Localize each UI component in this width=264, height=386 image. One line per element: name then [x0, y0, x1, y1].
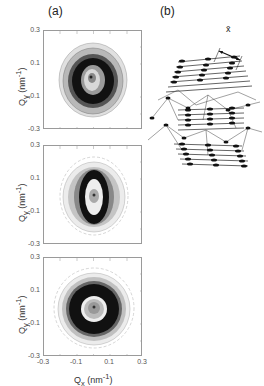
xtick: -0.3	[33, 358, 53, 365]
xtick: -0.1	[66, 358, 86, 365]
ytick: 0.1	[16, 174, 40, 181]
y-axis-label: Qy (nm-1)	[14, 184, 30, 222]
layered-structure-diagram: x̄	[148, 20, 264, 170]
contour-plot-bottom	[43, 257, 142, 356]
ytick: 0.1	[16, 59, 40, 66]
y-axis-label: Qy (nm-1)	[14, 68, 30, 106]
x-axis-label: Qx (nm-1)	[74, 372, 112, 386]
spacing-label: x̄	[226, 24, 231, 34]
ytick: 0.1	[16, 286, 40, 293]
contour-plot-top	[43, 30, 142, 129]
ytick: -0.3	[16, 125, 40, 132]
ytick: 0.3	[16, 141, 40, 148]
ytick: 0.3	[16, 26, 40, 33]
ytick: 0.3	[16, 253, 40, 260]
y-axis-label: Qy (nm-1)	[14, 296, 30, 334]
xtick: 0.3	[132, 358, 152, 365]
ytick: -0.3	[16, 240, 40, 247]
contour-plot-middle	[43, 145, 142, 244]
panel-b-label: (b)	[160, 4, 175, 18]
panel-a-label: (a)	[48, 4, 63, 18]
xtick: 0.1	[99, 358, 119, 365]
